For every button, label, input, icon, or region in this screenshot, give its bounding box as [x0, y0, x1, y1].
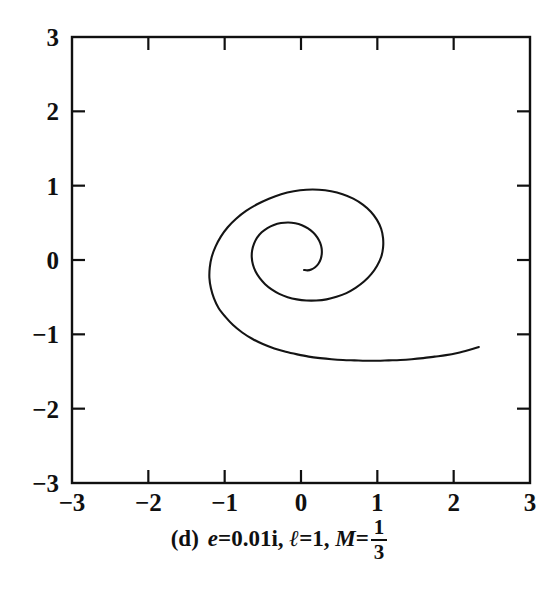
x-tick-label: 1	[371, 489, 384, 516]
x-tick-label: −2	[135, 489, 162, 516]
caption-comma-1: ,	[278, 526, 284, 552]
y-tick-label: 2	[47, 98, 60, 125]
x-tick-label: −1	[211, 489, 238, 516]
y-tick-label: −3	[32, 470, 59, 497]
x-tick-label: −3	[59, 489, 86, 516]
caption-e-relation: =	[218, 526, 231, 552]
caption-e-symbol: e	[208, 526, 218, 552]
figure-container: −3−2−10123 −3−2−10123 (d)e=0.01i, ℓ=1, M…	[0, 0, 558, 605]
caption-comma-2: ,	[324, 526, 330, 552]
y-tick-labels: −3−2−10123	[32, 24, 59, 497]
x-tick-labels: −3−2−10123	[59, 489, 537, 516]
y-tick-label: 0	[47, 247, 60, 274]
caption-M-symbol: M	[335, 526, 355, 552]
caption-M-relation: =	[356, 526, 369, 552]
tick-marks-group	[72, 37, 530, 483]
y-tick-label: −1	[32, 321, 59, 348]
caption-l-symbol: ℓ	[289, 526, 299, 552]
x-tick-label: 2	[447, 489, 460, 516]
caption-e-value: 0.01i	[231, 526, 278, 552]
spiral-plot: −3−2−10123 −3−2−10123	[0, 0, 558, 605]
x-tick-label: 0	[295, 489, 308, 516]
figure-caption: (d)e=0.01i, ℓ=1, M=13	[0, 516, 558, 563]
orbit-curve	[209, 190, 479, 361]
axes-frame	[72, 37, 530, 483]
fraction-numerator: 1	[371, 517, 388, 541]
fraction-denominator: 3	[371, 541, 388, 563]
caption-l-value: 1	[312, 526, 324, 552]
caption-index: (d)	[171, 526, 199, 552]
x-tick-label: 3	[524, 489, 537, 516]
caption-M-fraction: 13	[371, 517, 388, 564]
y-tick-label: −2	[32, 396, 59, 423]
y-tick-label: 3	[47, 24, 60, 51]
caption-l-relation: =	[299, 526, 312, 552]
y-tick-label: 1	[47, 173, 60, 200]
